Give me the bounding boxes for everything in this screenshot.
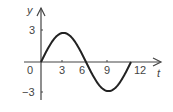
- y-axis-label: y: [26, 4, 34, 16]
- origin-label: 0: [27, 64, 33, 76]
- y-tick-label-neg3: −3: [22, 86, 35, 98]
- x-tick-label-6: 6: [79, 64, 85, 76]
- x-axis-label: t: [157, 67, 161, 79]
- x-tick-label-12: 12: [134, 64, 146, 76]
- x-tick-label-3: 3: [59, 64, 65, 76]
- y-tick-label-3: 3: [29, 24, 35, 36]
- x-tick-label-9: 9: [104, 64, 110, 76]
- sine-graph: y t 0 3 6 9 12 3 −3: [0, 0, 173, 112]
